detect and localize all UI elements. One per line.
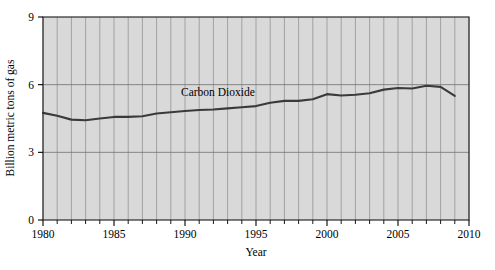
y-tick-label: 3 (28, 146, 34, 158)
y-axis-tick-labels: 0369 (28, 11, 34, 226)
series-annotation-label: Carbon Dioxide (181, 86, 255, 98)
x-tick-label: 1995 (245, 228, 268, 240)
x-axis-title: Year (245, 246, 266, 258)
x-axis-tick-labels: 1980198519901995200020052010 (32, 228, 481, 240)
x-tick-label: 1985 (103, 228, 126, 240)
x-tick-label: 2010 (458, 228, 481, 240)
y-axis-ticks (38, 17, 43, 220)
x-tick-label: 2000 (316, 228, 339, 240)
y-tick-label: 9 (28, 11, 34, 23)
chart-figure: 1980198519901995200020052010 0369 Year B… (0, 0, 495, 270)
x-tick-label: 2005 (387, 228, 410, 240)
y-tick-label: 0 (28, 214, 34, 226)
y-axis-title: Billion metric tons of gas (4, 59, 17, 176)
x-tick-label: 1980 (32, 228, 55, 240)
x-axis-major-ticks (43, 220, 469, 226)
line-chart: 1980198519901995200020052010 0369 Year B… (0, 0, 495, 270)
y-tick-label: 6 (28, 79, 34, 91)
x-tick-label: 1990 (174, 228, 197, 240)
